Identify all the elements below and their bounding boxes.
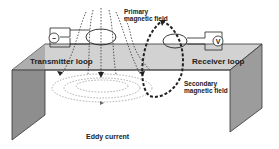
ac-source-symbol: ~ (52, 35, 56, 42)
transmitter-loop-label: Transmitter loop (30, 57, 93, 66)
field-arrow-icon (98, 72, 104, 78)
eddy-arrow-icon (100, 101, 104, 105)
left-wall (12, 70, 45, 140)
receiver-loop-label: Receiver loop (192, 57, 245, 66)
voltmeter-symbol: V (216, 38, 221, 45)
eddy-current-loops (52, 74, 152, 102)
secondary-field-label-2: magnetic field (184, 87, 228, 95)
eddy-current-label: Eddy current (86, 133, 130, 141)
primary-field-label-2: magnetic field (124, 15, 168, 23)
electromagnetic-induction-diagram: ~ V Transmitter loop Receiver loop Prima… (0, 0, 279, 149)
